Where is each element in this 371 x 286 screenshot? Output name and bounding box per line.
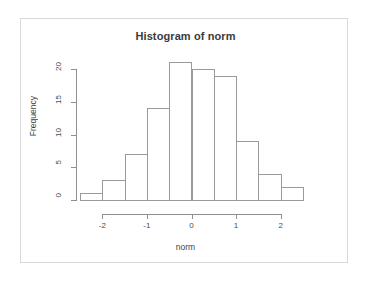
histogram-bar [236,141,259,201]
plot-area: 05101520 Frequency -2-1012 norm [0,0,371,286]
x-axis-tick-label: 2 [271,222,291,230]
y-axis-tick [71,102,76,103]
histogram-bar [147,108,170,201]
histogram-bar [125,154,148,201]
histogram-bar [214,76,237,201]
y-axis-title: Frequency [28,96,38,136]
y-axis-tick-label: 5 [55,160,69,164]
x-axis-tick-label: 0 [182,222,202,230]
y-axis-tick-label: 20 [55,62,69,71]
y-axis-tick [71,135,76,136]
y-axis-tick [71,69,76,70]
y-axis-tick-label: 10 [55,128,69,137]
histogram-bar [281,187,304,201]
x-axis-title: norm [0,242,371,252]
histogram-bar [169,62,192,201]
x-axis-tick [236,214,237,219]
y-axis-line [76,69,77,201]
x-axis-tick [102,214,103,219]
histogram-baseline [80,200,304,201]
x-axis-tick [147,214,148,219]
y-axis-tick [71,200,76,201]
x-axis-tick [192,214,193,219]
histogram-bar [192,69,215,201]
y-axis-tick-label: 15 [55,95,69,104]
y-axis-tick-label: 0 [55,193,69,197]
histogram-bar [258,174,281,201]
x-axis-tick-label: -1 [137,222,157,230]
x-axis-tick [281,214,282,219]
x-axis-tick-label: 1 [226,222,246,230]
histogram-screenshot: Histogram of norm 05101520 Frequency -2-… [0,0,371,286]
y-axis-tick [71,167,76,168]
histogram-bar [102,180,125,201]
x-axis-tick-label: -2 [92,222,112,230]
